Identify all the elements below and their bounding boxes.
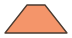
trapezoid-shape[interactable] [5,5,67,33]
diagram-canvas [0,0,72,38]
